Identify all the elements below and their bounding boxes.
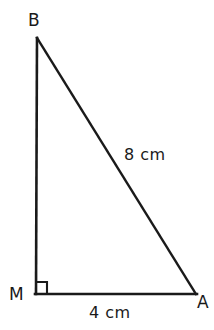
- vertex-label-b: B: [28, 12, 40, 29]
- base-measure-label: 4 cm: [89, 305, 131, 321]
- side-bm-line: [36, 38, 37, 294]
- hypotenuse-measure-label: 8 cm: [124, 147, 166, 163]
- vertex-label-a: A: [197, 294, 209, 311]
- side-ba-line: [37, 38, 196, 294]
- vertex-label-m: M: [9, 286, 24, 303]
- right-angle-marker: [36, 282, 47, 293]
- triangle-drawing: [0, 0, 214, 330]
- geometry-figure: B M A 8 cm 4 cm: [0, 0, 214, 330]
